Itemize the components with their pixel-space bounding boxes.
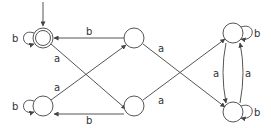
label-q2-q0: b (86, 26, 92, 37)
label-q0-q0: b (12, 33, 18, 44)
state-q4 (223, 23, 243, 43)
label-q3-q1: b (86, 115, 92, 126)
automaton-diagram: b b a a a a a a b b b b (0, 0, 271, 128)
state-q5 (223, 102, 243, 122)
label-q4-q4: b (254, 28, 260, 39)
label-q3-q4: a (158, 95, 164, 106)
label-q2-q5: a (158, 43, 164, 54)
label-q5-q5: b (254, 107, 260, 118)
label-q1-q1: b (12, 101, 18, 112)
loop-q1 (24, 100, 35, 112)
state-q1 (33, 96, 53, 116)
label-q5-q4: a (245, 68, 251, 79)
label-q4-q5: a (213, 68, 219, 79)
label-q1-q2: a (54, 82, 60, 93)
state-q2 (124, 28, 144, 48)
edge-q5-q4 (240, 43, 243, 103)
label-q0-q3: a (54, 53, 60, 64)
edge-q4-q5 (223, 43, 226, 103)
state-q0 (33, 28, 53, 48)
loop-q0 (24, 32, 35, 44)
state-q3 (124, 96, 144, 116)
